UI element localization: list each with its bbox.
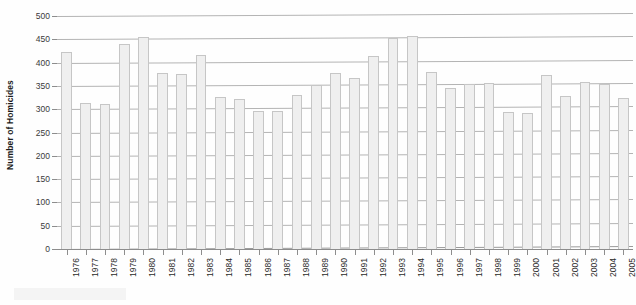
x-axis-label-1991: 1991 <box>359 258 369 277</box>
bar-1977 <box>80 103 91 249</box>
x-axis-label-1977: 1977 <box>90 258 100 277</box>
bar-2001 <box>541 75 552 249</box>
y-tick-label-350: 350 <box>36 81 50 91</box>
x-axis-label-1979: 1979 <box>128 258 138 277</box>
bar-2004 <box>599 84 610 249</box>
bar-1978 <box>100 104 111 249</box>
bar-1976 <box>61 52 72 249</box>
x-axis-label-2003: 2003 <box>589 258 599 277</box>
x-tick-mark-1981 <box>163 250 164 255</box>
bar-1990 <box>330 73 341 249</box>
scan-artifact <box>14 288 126 300</box>
bar-1988 <box>292 95 303 249</box>
bar-1999 <box>503 112 514 249</box>
x-tick-mark-1977 <box>86 250 87 255</box>
x-tick-mark-2005 <box>623 250 624 255</box>
x-axis-label-1998: 1998 <box>493 258 503 277</box>
x-tick-mark-1997 <box>470 250 471 255</box>
x-axis-label-1984: 1984 <box>224 258 234 277</box>
x-tick-mark-1995 <box>431 250 432 255</box>
bar-1981 <box>157 73 168 249</box>
bar-1986 <box>253 111 264 249</box>
x-axis-label-1994: 1994 <box>416 258 426 277</box>
y-axis-title-label: Number of Homicides <box>5 80 15 170</box>
bar-1997 <box>464 84 475 249</box>
x-tick-mark-1991 <box>355 250 356 255</box>
x-axis-label-1988: 1988 <box>301 258 311 277</box>
x-axis-label-1995: 1995 <box>435 258 445 277</box>
bars-layer <box>57 16 633 249</box>
bar-1991 <box>349 78 360 249</box>
x-tick-mark-2000 <box>527 250 528 255</box>
x-axis-label-1980: 1980 <box>147 258 157 277</box>
bar-1984 <box>215 97 226 249</box>
x-axis-label-1986: 1986 <box>263 258 273 277</box>
x-axis-label-1996: 1996 <box>455 258 465 277</box>
x-tick-mark-1992 <box>374 250 375 255</box>
bar-1996 <box>445 88 456 249</box>
x-tick-mark-1998 <box>489 250 490 255</box>
bar-1980 <box>138 37 149 249</box>
x-axis-label-2004: 2004 <box>608 258 618 277</box>
x-tick-mark-1978 <box>105 250 106 255</box>
x-axis-label-1992: 1992 <box>378 258 388 277</box>
bar-2005 <box>618 98 629 249</box>
x-axis-label-2000: 2000 <box>531 258 541 277</box>
y-tick-label-200: 200 <box>36 151 50 161</box>
y-tick-label-150: 150 <box>36 174 50 184</box>
plot-area: 500450400350300250200150100500 <box>57 16 633 249</box>
y-tick-label-450: 450 <box>36 34 50 44</box>
x-tick-mark-2003 <box>585 250 586 255</box>
homicides-bar-chart: Number of Homicides 50045040035030025020… <box>0 0 636 305</box>
x-tick-mark-1985 <box>239 250 240 255</box>
bar-1987 <box>272 111 283 249</box>
x-tick-mark-1984 <box>220 250 221 255</box>
bar-1998 <box>484 83 495 249</box>
x-axis-label-1990: 1990 <box>339 258 349 277</box>
bar-1979 <box>119 44 130 250</box>
x-axis-label-2005: 2005 <box>627 258 636 277</box>
bar-1995 <box>426 72 437 249</box>
x-axis-label-1982: 1982 <box>186 258 196 277</box>
x-axis-label-1987: 1987 <box>282 258 292 277</box>
bar-1993 <box>388 38 399 249</box>
x-tick-mark-1988 <box>297 250 298 255</box>
y-tick-label-300: 300 <box>36 104 50 114</box>
bar-1983 <box>196 55 207 249</box>
x-tick-mark-1980 <box>143 250 144 255</box>
x-axis-label-1985: 1985 <box>243 258 253 277</box>
x-tick-mark-1994 <box>412 250 413 255</box>
x-tick-mark-1976 <box>67 250 68 255</box>
x-tick-mark-1986 <box>259 250 260 255</box>
bar-2003 <box>580 82 591 249</box>
y-tick-label-50: 50 <box>41 221 50 231</box>
x-tick-mark-1989 <box>316 250 317 255</box>
x-tick-mark-1999 <box>508 250 509 255</box>
x-tick-mark-1983 <box>201 250 202 255</box>
x-tick-mark-1993 <box>393 250 394 255</box>
x-axis-label-2001: 2001 <box>551 258 561 277</box>
x-axis-label-1978: 1978 <box>109 258 119 277</box>
x-axis-label-1976: 1976 <box>71 258 81 277</box>
x-axis-label-1989: 1989 <box>320 258 330 277</box>
bar-1989 <box>311 85 322 249</box>
x-tick-mark-1987 <box>278 250 279 255</box>
y-axis-title: Number of Homicides <box>0 0 20 250</box>
x-tick-mark-1990 <box>335 250 336 255</box>
x-axis-label-1981: 1981 <box>167 258 177 277</box>
x-tick-mark-1982 <box>182 250 183 255</box>
x-tick-mark-2001 <box>547 250 548 255</box>
x-axis-labels: 1976197719781979198019811982198319841985… <box>57 250 633 305</box>
y-tick-label-100: 100 <box>36 197 50 207</box>
y-tick-label-400: 400 <box>36 58 50 68</box>
bar-1985 <box>234 99 245 249</box>
y-tick-label-0: 0 <box>45 244 50 254</box>
x-tick-mark-1996 <box>451 250 452 255</box>
x-tick-mark-2004 <box>604 250 605 255</box>
bar-1994 <box>407 36 418 249</box>
x-tick-mark-2002 <box>566 250 567 255</box>
y-tick-label-500: 500 <box>36 11 50 21</box>
bar-2000 <box>522 113 533 249</box>
bar-2002 <box>560 96 571 249</box>
y-tick-label-250: 250 <box>36 128 50 138</box>
